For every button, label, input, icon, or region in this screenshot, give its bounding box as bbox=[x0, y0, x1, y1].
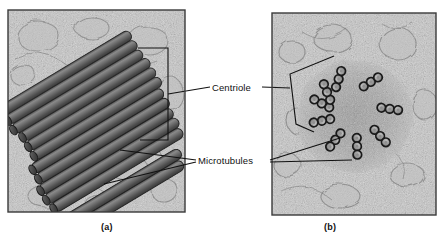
panel-a-caption: (a) bbox=[101, 222, 113, 232]
panel-b bbox=[262, 13, 436, 215]
microtubule-triplet bbox=[352, 133, 361, 159]
label-microtubules: Microtubules bbox=[198, 155, 253, 166]
label-centriole: Centriole bbox=[212, 82, 251, 93]
panel-b-micrograph-background bbox=[272, 13, 436, 215]
panel-b-caption: (b) bbox=[324, 222, 336, 232]
centriole-figure bbox=[0, 0, 447, 240]
panel-a bbox=[0, 10, 210, 240]
